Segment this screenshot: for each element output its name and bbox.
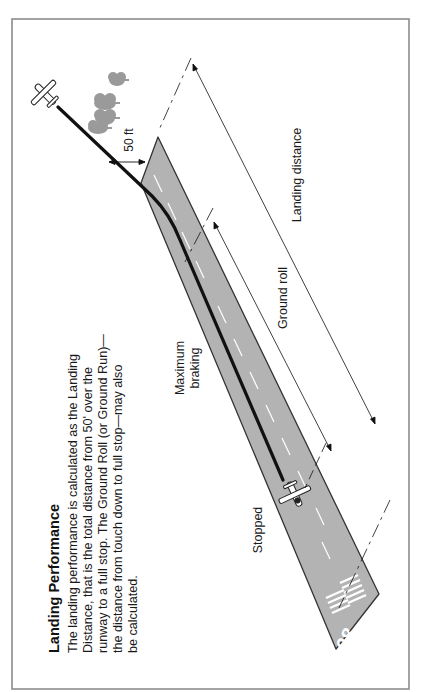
- caption-line-4: the distance from touch down to full sto…: [111, 365, 125, 653]
- caption-line-2: Distance, that is the total distance fro…: [81, 367, 95, 653]
- obstacle-height-label: 50 ft: [122, 128, 136, 152]
- figure-title: Landing Performance: [46, 504, 62, 653]
- max-braking-label: Maximum: [173, 341, 187, 395]
- caption-line-5: be calculated.: [126, 575, 140, 653]
- landing-distance-label: Landing distance: [290, 128, 304, 223]
- stopped-label: Stopped: [251, 507, 265, 554]
- landing-performance-diagram: 08 50 ft Landing distance: [0, 0, 424, 692]
- caption-line-3: runway to a full stop. The Ground Roll (…: [96, 334, 110, 653]
- caption-line-1: The landing performance is calculated as…: [66, 354, 80, 653]
- max-braking-label-2: braking: [188, 347, 202, 388]
- ground-roll-label: Ground roll: [276, 267, 290, 329]
